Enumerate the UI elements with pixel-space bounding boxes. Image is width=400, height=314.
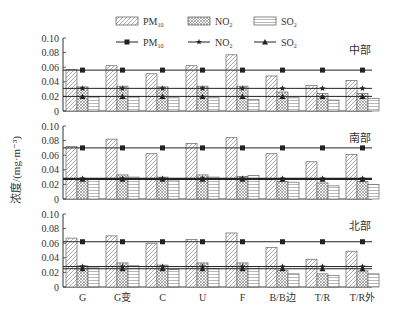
y-tick-label: 0.06 <box>42 150 60 161</box>
ref-pm10-square-marker <box>160 68 165 73</box>
y-tick-label: 0.08 <box>42 223 60 234</box>
ref-pm10-square-marker <box>280 68 285 73</box>
bar-no2 <box>357 181 368 199</box>
panel-2: 00.020.040.060.080.10南部 <box>42 121 380 205</box>
panel-3: 00.020.040.060.080.10北部 <box>42 209 380 293</box>
legend-bar-label-no2: NO2 <box>215 16 232 28</box>
legend-bar-label-pm10: PM10 <box>143 16 163 28</box>
y-tick-label: 0.02 <box>42 267 60 278</box>
chart-svg: PM10NO2SO2PM10NO2SO2 浓度/(mg·m⁻³) 00.020.… <box>0 0 400 314</box>
bar-pm10 <box>186 144 197 199</box>
bar-so2 <box>288 98 299 111</box>
bar-so2 <box>168 269 179 287</box>
y-tick-label: 0.08 <box>42 135 60 146</box>
bar-so2 <box>208 177 219 199</box>
y-tick-label: 0.10 <box>42 33 60 44</box>
chart-container: PM10NO2SO2PM10NO2SO2 浓度/(mg·m⁻³) 00.020.… <box>0 0 400 314</box>
bar-no2 <box>357 271 368 287</box>
bar-pm10 <box>306 162 317 199</box>
ref-no2-star-marker <box>319 85 325 91</box>
y-tick-label: 0.10 <box>42 209 60 220</box>
ref-pm10-square-marker <box>280 239 285 244</box>
legend-line-label-no2: NO2 <box>215 37 232 49</box>
bar-pm10 <box>346 80 357 111</box>
bar-pm10 <box>186 240 197 287</box>
bar-so2 <box>88 268 99 287</box>
panel-title: 南部 <box>349 131 371 144</box>
ref-pm10-square-marker <box>120 68 125 73</box>
x-tick-label: T/R外 <box>350 292 376 303</box>
bar-so2 <box>208 269 219 287</box>
legend-bar-swatch-so2 <box>254 17 276 25</box>
y-tick-label: 0.08 <box>42 47 60 58</box>
y-tick-label: 0.04 <box>42 252 60 263</box>
ref-pm10-square-marker <box>200 145 205 150</box>
bar-pm10 <box>226 55 237 111</box>
x-tick-label: T/R <box>315 292 331 303</box>
ref-pm10-square-marker <box>160 145 165 150</box>
bar-no2 <box>77 87 88 111</box>
bar-pm10 <box>306 259 317 287</box>
bar-pm10 <box>266 76 277 111</box>
panel-1: 00.020.040.060.080.10中部 <box>42 33 380 117</box>
bar-so2 <box>88 96 99 111</box>
bar-no2 <box>317 274 328 287</box>
panel-title: 中部 <box>349 43 371 56</box>
ref-pm10-square-marker <box>160 239 165 244</box>
y-tick-label: 0 <box>54 282 59 293</box>
x-tick-label: G变 <box>114 291 131 303</box>
bar-so2 <box>368 184 379 199</box>
bar-so2 <box>368 274 379 287</box>
bar-pm10 <box>66 238 77 287</box>
y-tick-label: 0.10 <box>42 121 60 132</box>
bar-pm10 <box>66 69 77 111</box>
ref-pm10-square-marker <box>280 145 285 150</box>
bar-pm10 <box>266 248 277 287</box>
ref-pm10-square-marker <box>240 145 245 150</box>
bar-so2 <box>168 180 179 199</box>
x-tick-label: C <box>159 292 166 303</box>
ref-pm10-square-marker <box>200 68 205 73</box>
bar-so2 <box>168 98 179 111</box>
ref-pm10-square-marker <box>120 239 125 244</box>
bar-so2 <box>248 99 259 111</box>
ref-pm10-square-marker <box>80 239 85 244</box>
bar-so2 <box>88 179 99 199</box>
x-tick-label: F <box>240 292 246 303</box>
y-tick-label: 0.02 <box>42 91 60 102</box>
bar-no2 <box>77 179 88 199</box>
bar-pm10 <box>306 85 317 111</box>
bar-pm10 <box>146 243 157 287</box>
bar-pm10 <box>346 154 357 199</box>
ref-pm10-square-marker <box>80 68 85 73</box>
bar-so2 <box>328 100 339 111</box>
ref-pm10-square-marker <box>80 145 85 150</box>
panel-title: 北部 <box>349 219 371 232</box>
bar-pm10 <box>66 146 77 199</box>
bar-pm10 <box>146 74 157 111</box>
bar-so2 <box>208 98 219 111</box>
y-tick-label: 0.06 <box>42 238 60 249</box>
ref-pm10-square-marker <box>320 145 325 150</box>
bar-so2 <box>128 96 139 111</box>
legend-bar-swatch-pm10 <box>116 17 138 25</box>
ref-no2-star-marker <box>279 85 285 91</box>
chart-panels: 00.020.040.060.080.10中部00.020.040.060.08… <box>42 33 380 293</box>
legend-bar-swatch-no2 <box>188 17 210 25</box>
bar-pm10 <box>146 154 157 199</box>
legend-pm10-square-marker <box>125 40 130 45</box>
legend-line-label-pm10: PM10 <box>143 37 163 49</box>
x-tick-label: G <box>79 292 86 303</box>
ref-pm10-square-marker <box>360 145 365 150</box>
bar-so2 <box>328 186 339 199</box>
y-tick-label: 0.06 <box>42 62 60 73</box>
ref-pm10-square-marker <box>360 239 365 244</box>
y-axis-label: 浓度/(mg·m⁻³) <box>9 136 23 204</box>
bar-no2 <box>317 183 328 199</box>
y-tick-label: 0.02 <box>42 179 60 190</box>
x-tick-label: U <box>199 292 207 303</box>
bar-so2 <box>128 177 139 199</box>
ref-pm10-square-marker <box>240 68 245 73</box>
ref-pm10-square-marker <box>320 239 325 244</box>
legend-bar-label-so2: SO2 <box>281 16 297 28</box>
